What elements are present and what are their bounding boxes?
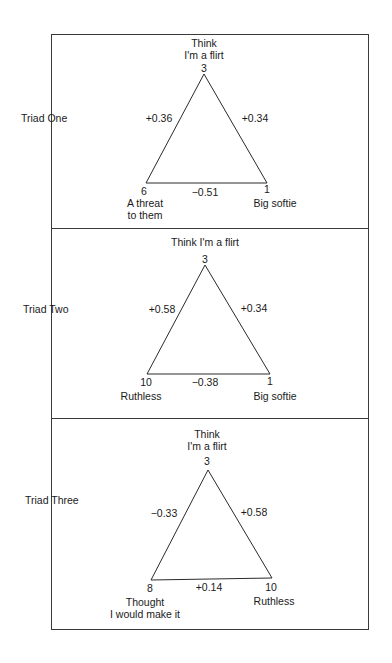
apex-label-line1: Think <box>187 428 226 440</box>
right-edge-coefficient: +0.58 <box>241 506 268 518</box>
left-vertex-rank: 8 <box>147 582 153 594</box>
right-vertex-label: Ruthless <box>254 595 295 607</box>
apex-label-line2: I'm a flirt <box>187 440 226 452</box>
triad-triangle <box>0 0 392 663</box>
left-vertex-label: Thought I would make it <box>110 596 180 620</box>
left-vertex-label-line2: I would make it <box>110 608 180 620</box>
apex-label: Think I'm a flirt <box>187 428 226 452</box>
left-vertex-label-line1: Thought <box>110 596 180 608</box>
bottom-edge-coefficient: +0.14 <box>196 581 223 593</box>
apex-rank: 3 <box>204 455 210 467</box>
left-edge-coefficient: −0.33 <box>151 507 178 519</box>
right-vertex-rank: 10 <box>265 581 277 593</box>
